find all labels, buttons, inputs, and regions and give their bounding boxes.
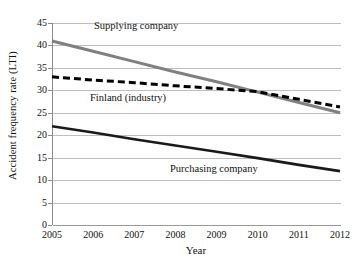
y-tick-label-40: 40 <box>8 40 52 50</box>
y-tick-label-30: 30 <box>8 85 52 95</box>
x-tick-label-2012: 2012 <box>318 229 358 241</box>
x-tick-label-2006: 2006 <box>71 229 115 241</box>
x-tick-label-2010: 2010 <box>236 229 280 241</box>
line-chart: Accident frequency rate (LTI) 0510152025… <box>0 0 358 269</box>
y-tick-label-35: 35 <box>8 63 52 73</box>
x-tick-label-2009: 2009 <box>195 229 239 241</box>
x-tick-label-2008: 2008 <box>153 229 197 241</box>
y-tick-label-15: 15 <box>8 153 52 163</box>
x-axis-ticks: 20052006200720082009201020112012 <box>52 225 340 245</box>
series-label-purchasing-company: Purchasing company <box>170 163 258 175</box>
y-tick-label-5: 5 <box>8 198 52 208</box>
series-layer <box>52 23 340 225</box>
y-tick-label-20: 20 <box>8 130 52 140</box>
series-label-finland-industry: Finland (industry) <box>90 92 166 104</box>
series-label-supplying-company: Supplying company <box>94 20 178 32</box>
x-tick-label-2011: 2011 <box>277 229 321 241</box>
y-tick-label-10: 10 <box>8 175 52 185</box>
y-tick-label-25: 25 <box>8 108 52 118</box>
y-axis-ticks: 051015202530354045 <box>0 23 52 225</box>
x-axis-title: Year <box>52 243 340 257</box>
x-tick-label-2007: 2007 <box>112 229 156 241</box>
x-tick-label-2005: 2005 <box>30 229 74 241</box>
y-tick-label-45: 45 <box>8 18 52 28</box>
